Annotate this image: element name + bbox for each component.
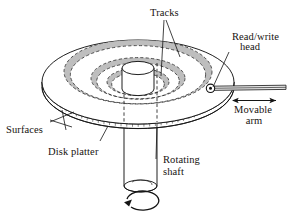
diagram-canvas: Tracks Read/write head Movable arm Surfa… [0,0,288,219]
surfaces-leader-upper [50,112,74,122]
label-movable-line2: arm [246,115,263,126]
center-hub [122,61,154,95]
hub-top-ellipse [122,61,154,74]
rotating-shaft [124,118,157,192]
label-tracks: Tracks [150,7,179,18]
read-write-head-core [209,87,212,90]
disk-platter-diagram: Tracks Read/write head Movable arm Surfa… [0,0,288,219]
label-movable-line1: Movable [234,104,272,115]
label-surfaces: Surfaces [6,124,43,135]
label-disk-platter: Disk platter [48,146,99,157]
surfaces-leader-lower [50,120,72,127]
label-read-write-line2: head [240,41,261,52]
label-rotating-line1: Rotating [163,154,201,165]
label-rotating-line2: shaft [163,166,184,177]
disk-platter-leader [100,126,108,141]
rotation-arrow-icon [124,191,159,210]
